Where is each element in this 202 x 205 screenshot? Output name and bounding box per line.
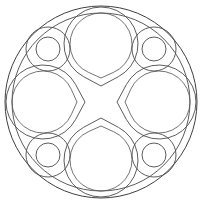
rosette-drawing: Geometric Rosette Symmetric compass-and-… [0, 0, 202, 205]
background-plate [0, 0, 202, 205]
artwork-canvas: Geometric Rosette Symmetric compass-and-… [0, 0, 202, 205]
